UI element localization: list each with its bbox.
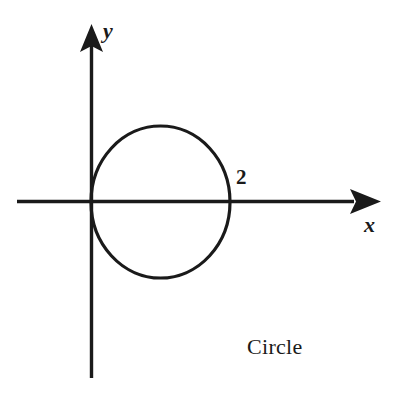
y-axis-label: y [103,20,113,42]
circle-diagram-figure: y x 2 Circle [0,0,393,408]
x-axis-arrowhead [350,189,381,214]
x-axis-label: x [364,214,375,236]
x-intercept-tick-label: 2 [236,167,247,188]
diagram-canvas [0,0,393,408]
figure-caption: Circle [247,336,303,358]
